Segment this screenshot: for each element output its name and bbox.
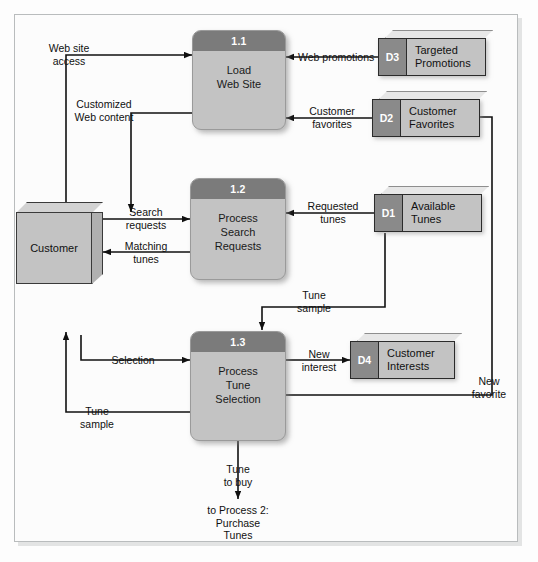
data-store-d2-body: D2 Customer Favorites: [372, 99, 480, 137]
process-1-3-name-line1: Process: [191, 364, 285, 378]
process-1-1-name-line2: Web Site: [193, 77, 285, 91]
data-store-d2-top: [379, 91, 487, 99]
customer-entity-side-face: [92, 212, 103, 284]
process-1-3-name: Process Tune Selection: [191, 352, 285, 406]
flow-label-tune-sample-left-line2: sample: [70, 418, 124, 431]
data-store-d4-label: Customer Interests: [379, 342, 454, 378]
process-1-3[interactable]: 1.3 Process Tune Selection: [190, 331, 286, 441]
flow-label-matching-tunes: Matching tunes: [112, 240, 180, 265]
flow-label-tune-to-buy-line2: to buy: [212, 476, 264, 489]
customer-entity-label: Customer: [30, 242, 78, 254]
data-store-d1-label: Available Tunes: [403, 195, 481, 231]
flow-label-web-promotions-line1: Web promotions: [298, 51, 382, 64]
data-store-d1-label-line2: Tunes: [411, 213, 477, 226]
data-store-d4[interactable]: D4 Customer Interests: [350, 333, 455, 379]
data-store-d4-label-line2: Interests: [387, 360, 450, 373]
flow-label-web-promotions: Web promotions: [298, 51, 382, 64]
flow-label-web-site-access-line2: access: [32, 55, 106, 68]
flow-label-new-favorite-line1: New: [458, 375, 520, 388]
flow-label-customer-favorites-line1: Customer: [294, 105, 370, 118]
terminator-line1: to Process 2:: [186, 504, 290, 517]
flow-label-tune-sample-left-line1: Tune: [70, 405, 124, 418]
process-1-3-number: 1.3: [191, 332, 285, 352]
data-store-d4-top: [357, 333, 462, 341]
flow-label-customized-web-content: Customized Web content: [58, 98, 150, 123]
flow-label-requested-tunes-line1: Requested: [296, 200, 370, 213]
data-store-d1-top: [381, 186, 489, 194]
flow-label-new-interest-line2: interest: [293, 361, 345, 374]
flow-label-customized-web-content-line2: Web content: [58, 111, 150, 124]
data-store-d4-label-line1: Customer: [387, 347, 450, 360]
data-store-d4-id: D4: [351, 342, 379, 378]
data-store-d2[interactable]: D2 Customer Favorites: [372, 91, 480, 137]
process-1-3-name-line3: Selection: [191, 392, 285, 406]
process-1-1[interactable]: 1.1 Load Web Site: [192, 30, 286, 130]
flow-label-customized-web-content-line1: Customized: [58, 98, 150, 111]
process-1-2-name: Process Search Requests: [191, 199, 285, 253]
process-1-2-name-line3: Requests: [191, 239, 285, 253]
external-entity-customer[interactable]: Customer: [16, 202, 106, 297]
flow-label-web-site-access-line1: Web site: [32, 42, 106, 55]
data-store-d1-id: D1: [375, 195, 403, 231]
data-store-d3-label-line2: Promotions: [415, 57, 481, 70]
data-store-d2-label: Customer Favorites: [401, 100, 479, 136]
data-store-d3-label-line1: Targeted: [415, 44, 481, 57]
flow-label-tune-sample-left: Tune sample: [70, 405, 124, 430]
flow-label-tune-to-buy-line1: Tune: [212, 463, 264, 476]
flow-label-new-interest: New interest: [293, 348, 345, 373]
data-store-d4-body: D4 Customer Interests: [350, 341, 455, 379]
terminator-line3: Tunes: [186, 529, 290, 542]
flow-label-search-requests-line1: Search: [112, 206, 180, 219]
data-store-d1-label-line1: Available: [411, 200, 477, 213]
data-store-d1[interactable]: D1 Available Tunes: [374, 186, 482, 232]
flow-label-new-favorite: New favorite: [458, 375, 520, 400]
flow-label-selection: Selection: [100, 354, 166, 367]
data-store-d3-id: D3: [379, 39, 407, 75]
data-store-d3-label: Targeted Promotions: [407, 39, 485, 75]
data-store-d3[interactable]: D3 Targeted Promotions: [378, 30, 486, 76]
flow-label-matching-tunes-line2: tunes: [112, 253, 180, 266]
flow-label-web-site-access: Web site access: [32, 42, 106, 67]
process-1-2-name-line1: Process: [191, 211, 285, 225]
data-store-d2-id: D2: [373, 100, 401, 136]
process-1-3-name-line2: Tune: [191, 378, 285, 392]
flow-label-search-requests: Search requests: [112, 206, 180, 231]
terminator-to-process-2: to Process 2: Purchase Tunes: [186, 504, 290, 542]
process-1-1-name-line1: Load: [193, 63, 285, 77]
flow-label-tune-sample-top-line1: Tune: [288, 289, 340, 302]
data-store-d3-top: [385, 30, 493, 38]
flow-label-new-favorite-line2: favorite: [458, 388, 520, 401]
flow-label-requested-tunes-line2: tunes: [296, 213, 370, 226]
flow-label-requested-tunes: Requested tunes: [296, 200, 370, 225]
process-1-2[interactable]: 1.2 Process Search Requests: [190, 178, 286, 280]
dfd-canvas: 1.1 Load Web Site 1.2 Process Search Req…: [0, 0, 538, 562]
process-1-1-name: Load Web Site: [193, 51, 285, 91]
terminator-line2: Purchase: [186, 517, 290, 530]
customer-entity-front-face: Customer: [16, 212, 92, 284]
flow-label-selection-line1: Selection: [100, 354, 166, 367]
flow-label-matching-tunes-line1: Matching: [112, 240, 180, 253]
data-store-d1-body: D1 Available Tunes: [374, 194, 482, 232]
flow-label-tune-sample-top-line2: sample: [288, 302, 340, 315]
flow-label-customer-favorites: Customer favorites: [294, 105, 370, 130]
data-store-d2-label-line2: Favorites: [409, 118, 475, 131]
data-store-d3-body: D3 Targeted Promotions: [378, 38, 486, 76]
data-store-d2-label-line1: Customer: [409, 105, 475, 118]
flow-label-search-requests-line2: requests: [112, 219, 180, 232]
process-1-1-number: 1.1: [193, 31, 285, 51]
flow-label-tune-to-buy: Tune to buy: [212, 463, 264, 488]
flow-label-customer-favorites-line2: favorites: [294, 118, 370, 131]
process-1-2-number: 1.2: [191, 179, 285, 199]
flow-label-tune-sample-top: Tune sample: [288, 289, 340, 314]
flow-label-new-interest-line1: New: [293, 348, 345, 361]
process-1-2-name-line2: Search: [191, 225, 285, 239]
